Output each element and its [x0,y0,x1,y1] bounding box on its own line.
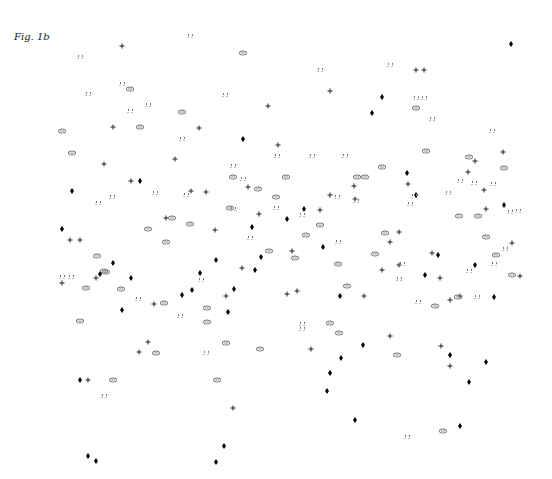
hash-marker-icon [204,351,209,355]
plus-marker-icon [213,228,218,233]
oval-marker-icon [213,378,221,383]
oval-marker-icon [152,351,160,356]
diamond-marker-icon [325,388,329,394]
oval-marker-icon [229,175,237,180]
hash-marker-icon [300,213,305,217]
plus-marker-icon [94,276,99,281]
plus-marker-icon [276,143,281,148]
plus-marker-icon [510,241,515,246]
oval-marker-icon [361,175,369,180]
diamond-marker-icon [361,342,365,348]
diamond-marker-icon [129,275,133,281]
diamond-marker-icon [180,292,184,298]
hash-marker-icon [491,182,496,186]
diamond-marker-icon [502,202,506,208]
diamond-marker-icon [492,294,496,300]
hash-marker-icon [153,191,158,195]
oval-marker-icon [343,284,351,289]
oval-marker-icon [178,110,186,115]
plus-marker-icon [68,238,73,243]
oval-marker-icon [454,295,462,300]
diamond-marker-icon [328,370,332,376]
oval-marker-icon [316,223,324,228]
hash-marker-icon [180,137,185,141]
hash-marker-icon [310,154,315,158]
plus-marker-icon [388,240,393,245]
oval-marker-icon [93,254,101,259]
plus-marker-icon [102,162,107,167]
plus-marker-icon [352,184,357,189]
oval-marker-icon [256,347,264,352]
hash-marker-icon [178,314,183,318]
diamond-marker-icon [250,224,254,230]
plus-marker-icon [438,276,443,281]
diamond-marker-icon [111,260,115,266]
hash-marker-icon [503,247,508,251]
hash-marker-icon [335,195,340,199]
hash-marker-icon [422,96,427,100]
oval-marker-icon [508,273,516,278]
plus-marker-icon [86,378,91,383]
plus-marker-icon [501,150,506,155]
diamond-marker-icon [405,170,409,176]
diamond-marker-icon [222,443,226,449]
plus-marker-icon [120,44,125,49]
oval-marker-icon [482,235,490,240]
plus-marker-icon [482,188,487,193]
hash-marker-icon [414,96,419,100]
oval-marker-icon [136,125,144,130]
oval-marker-icon [117,287,125,292]
diamond-marker-icon [60,226,64,232]
plus-marker-icon [173,157,178,162]
hash-marker-icon [120,82,125,86]
hash-marker-icon [343,154,348,158]
oval-marker-icon [492,253,500,258]
oval-marker-icon [465,155,473,160]
plus-marker-icon [448,364,453,369]
plus-marker-icon [137,350,142,355]
hash-marker-icon [248,236,253,240]
hash-marker-icon [300,322,305,326]
hash-marker-icon [69,275,74,279]
plus-marker-icon [204,190,209,195]
hash-marker-icon [412,194,417,198]
oval-marker-icon [353,175,361,180]
hash-marker-icon [467,269,472,273]
hash-marker-icon [446,191,451,195]
plus-marker-icon [380,268,385,273]
diamond-marker-icon [259,254,263,260]
diamond-marker-icon [78,377,82,383]
plus-marker-icon [388,334,393,339]
oval-marker-icon [186,222,194,227]
hash-marker-icon [430,117,435,121]
plus-marker-icon [189,189,194,194]
oval-marker-icon [162,240,170,245]
hash-marker-icon [405,435,410,439]
oval-marker-icon [203,306,211,311]
diamond-marker-icon [509,41,513,47]
plus-marker-icon [448,298,453,303]
scatter-plot-area [0,0,552,479]
hash-marker-icon [199,278,204,282]
hash-marker-icon [136,297,141,301]
plus-marker-icon [246,185,251,190]
oval-marker-icon [168,216,176,221]
diamond-marker-icon [86,453,90,459]
hash-marker-icon [472,181,477,185]
hash-marker-icon [223,93,228,97]
hash-marker-icon [318,68,323,72]
oval-marker-icon [334,262,342,267]
hash-marker-icon [388,63,393,67]
plus-marker-icon [518,274,523,279]
diamond-marker-icon [338,293,342,299]
hash-marker-icon [492,262,497,266]
oval-marker-icon [160,301,168,306]
oval-marker-icon [455,214,463,219]
diamond-marker-icon [423,272,427,278]
diamond-marker-icon [226,309,230,315]
oval-marker-icon [126,87,134,92]
plus-marker-icon [129,179,134,184]
oval-marker-icon [109,378,117,383]
diamond-marker-icon [467,379,471,385]
oval-marker-icon [58,129,66,134]
